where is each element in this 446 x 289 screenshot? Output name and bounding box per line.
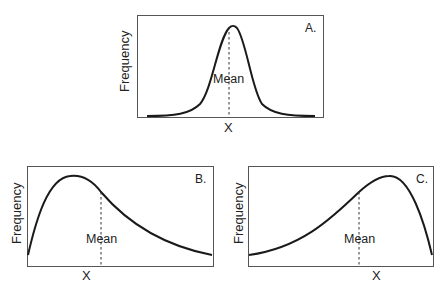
y-axis-label-c: Frequency	[231, 183, 246, 244]
panel-c: Frequency Mean X C.	[0, 0, 446, 289]
panel-label-c: C.	[416, 172, 428, 186]
x-axis-label-c: X	[372, 268, 381, 283]
skewed-left-curve-c	[0, 0, 446, 289]
mean-label-c: Mean	[344, 232, 375, 246]
